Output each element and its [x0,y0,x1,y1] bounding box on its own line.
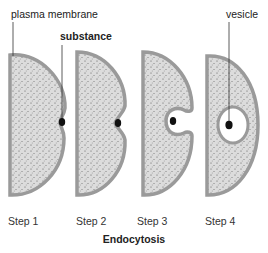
cell-step-1 [10,55,65,195]
step-4-label: Step 4 [205,215,235,227]
cell-step-2 [77,52,125,195]
substance-dot [225,121,232,129]
step-2-label: Step 2 [76,215,106,227]
step-3-label: Step 3 [137,215,167,227]
substance-dot [115,119,121,127]
cell-step-3 [143,52,192,195]
substance-dot [59,118,65,126]
plasma-membrane-label: plasma membrane [11,8,98,20]
step-1-label: Step 1 [8,215,38,227]
substance-label: substance [60,30,112,42]
cell-step-4 [207,56,258,195]
substance-dot [170,117,176,125]
diagram-title: Endocytosis [0,233,268,245]
vesicle [218,107,248,143]
vesicle-label: vesicle [226,8,258,20]
